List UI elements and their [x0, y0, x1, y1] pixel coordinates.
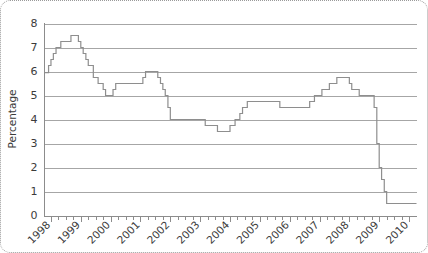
chart-figure: 012345678 199819992000200120022003200420…	[0, 0, 428, 253]
x-tick-label-2000: 2000	[85, 218, 112, 245]
data-line-series-0	[45, 36, 417, 204]
y-tick-label-6: 6	[31, 65, 38, 78]
x-axis-tick-labels: 1998199920002001200220032004200520062007…	[25, 218, 410, 246]
y-tick-label-7: 7	[31, 41, 38, 54]
x-tick-label-2002: 2002	[144, 218, 171, 245]
y-tick-label-4: 4	[31, 113, 38, 126]
x-tick-label-2003: 2003	[174, 218, 201, 245]
y-tick-label-0: 0	[31, 209, 38, 222]
x-tick-label-2007: 2007	[294, 218, 321, 245]
y-axis-tick-labels: 012345678	[31, 17, 38, 222]
y-axis-title: Percentage	[6, 89, 18, 148]
y-tick-label-5: 5	[31, 89, 38, 102]
x-tick-label-2010: 2010	[383, 218, 410, 245]
x-tick-label-2005: 2005	[234, 218, 261, 245]
x-tick-label-2001: 2001	[115, 218, 142, 245]
y-tick-label-8: 8	[31, 17, 38, 30]
x-tick-label-2006: 2006	[264, 218, 292, 246]
gridlines-group	[44, 25, 417, 217]
y-tick-label-3: 3	[31, 137, 38, 150]
x-tick-label-1998: 1998	[25, 218, 52, 245]
x-tick-label-2009: 2009	[353, 218, 380, 245]
chart-canvas: 012345678 199819992000200120022003200420…	[1, 1, 428, 253]
x-tick-label-2004: 2004	[204, 218, 232, 246]
y-tick-label-2: 2	[31, 161, 38, 174]
data-series-group	[45, 36, 417, 204]
y-tick-label-1: 1	[31, 185, 38, 198]
axis-lines	[45, 23, 417, 217]
x-tick-label-1999: 1999	[55, 218, 82, 245]
x-tick-label-2008: 2008	[323, 218, 350, 245]
